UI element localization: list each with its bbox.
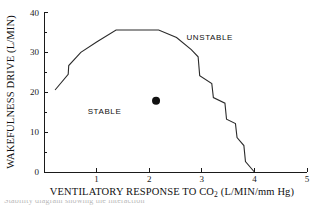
subject-data-point: [152, 97, 160, 105]
x-tick-label-1: 1: [94, 174, 99, 184]
x-axis-ticks: [44, 168, 307, 172]
x-tick-label-3: 3: [200, 174, 205, 184]
y-tick-label-30: 30: [30, 47, 40, 57]
x-axis-title: VENTILATORY RESPONSE TO CO2 (L/MIN/mm Hg…: [50, 186, 295, 199]
stable-region-label: STABLE: [88, 107, 122, 116]
x-tick-label-5: 5: [305, 174, 310, 184]
unstable-region-label: UNSTABLE: [186, 33, 232, 42]
y-tick-label-20: 20: [30, 87, 40, 97]
y-axis-ticks: [44, 12, 48, 172]
x-tick-label-4: 4: [252, 174, 257, 184]
y-tick-label-10: 10: [30, 127, 40, 137]
y-tick-label-0: 0: [35, 167, 40, 177]
x-axis-title-tail: (L/MIN/mm Hg): [218, 186, 295, 198]
figure-container: 0 10 20 30 40 1 2 3 4 5 STABLE UNSTABLE …: [0, 0, 317, 210]
stability-chart: 0 10 20 30 40 1 2 3 4 5 STABLE UNSTABLE …: [0, 0, 317, 210]
y-tick-label-40: 40: [30, 8, 40, 18]
x-tick-label-2: 2: [147, 174, 152, 184]
y-axis-title: WAKEFULNESS DRIVE (L/MIN): [5, 15, 17, 169]
figure-caption: Stability diagram showing the interactio…: [4, 200, 145, 205]
caption-strip: Stability diagram showing the interactio…: [0, 200, 317, 210]
x-axis-title-main: VENTILATORY RESPONSE TO CO: [50, 186, 215, 197]
